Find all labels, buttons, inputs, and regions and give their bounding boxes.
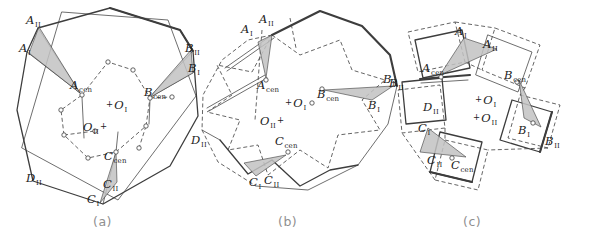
charge-plus-mark: +	[277, 115, 284, 125]
charge-plus-mark: +	[475, 94, 482, 104]
label-a-B-II: BII	[185, 42, 200, 56]
a-thick-top-edges	[110, 8, 193, 51]
label-c-C-cen: Ccen	[451, 159, 474, 173]
charge-plus-mark: +	[285, 97, 292, 107]
label-b-C-cen: Ccen	[275, 135, 298, 149]
label-a-O-II: OII+	[83, 121, 108, 135]
label-c-O-II: +OII	[472, 112, 497, 126]
label-b-D-II: DII	[191, 134, 207, 148]
label-a-D-II: DII	[26, 172, 42, 186]
label-c-B-II-right: BII	[545, 135, 560, 149]
label-c-C-II: CII	[427, 154, 442, 168]
label-b-A-II: AII	[259, 13, 274, 27]
label-c-B-I-right: BI	[518, 124, 530, 138]
charge-plus-mark: +	[106, 99, 113, 109]
label-a-C-II: CII	[103, 178, 118, 192]
label-b-B-I-right: BI	[368, 99, 380, 113]
c-accent-double-line	[421, 80, 468, 83]
label-a-A-I: AI	[19, 42, 31, 56]
label-c-D-II: DII	[423, 101, 439, 115]
label-b-A-cen: Acen	[257, 79, 279, 93]
label-c-A-II: AII	[483, 38, 498, 52]
label-a-C-I: CI	[87, 193, 99, 207]
label-b-O-II: OII+	[260, 115, 285, 129]
label-c-O-I: +OI	[474, 94, 496, 108]
label-a-C-cen: Ccen	[104, 150, 127, 164]
figure-three-panel-polyhedra: AIIAIAcenBIIBIBcen+OIOII+CcenDIICIICIAIA…	[0, 0, 596, 242]
label-a-B-cen: Bcen	[144, 86, 166, 100]
label-b-C-II: CII	[264, 174, 279, 188]
label-a-B-I: BI	[188, 62, 200, 76]
charge-plus-mark: +	[473, 112, 480, 122]
label-b-A-I: AI	[241, 23, 253, 37]
label-a-A-cen: Acen	[70, 79, 92, 93]
caption-c: (c)	[463, 214, 481, 229]
label-c-B-II-left: BII	[389, 77, 404, 91]
label-c-A-I: AI	[455, 25, 467, 39]
label-a-O-I: +OI	[105, 99, 127, 113]
caption-b: (b)	[278, 214, 297, 229]
label-b-B-cen: Bcen	[317, 88, 339, 102]
label-b-O-I: +OI	[284, 97, 306, 111]
c-shaded-face-B	[519, 80, 541, 127]
charge-plus-mark: +	[100, 121, 107, 131]
label-b-C-I: CI	[249, 176, 261, 190]
caption-a: (a)	[93, 214, 112, 229]
label-c-B-cen: Bcen	[504, 69, 526, 83]
label-a-A-II: AII	[26, 14, 41, 28]
label-c-A-cen: Acen	[422, 62, 444, 76]
label-c-C-I: CI	[418, 122, 430, 136]
